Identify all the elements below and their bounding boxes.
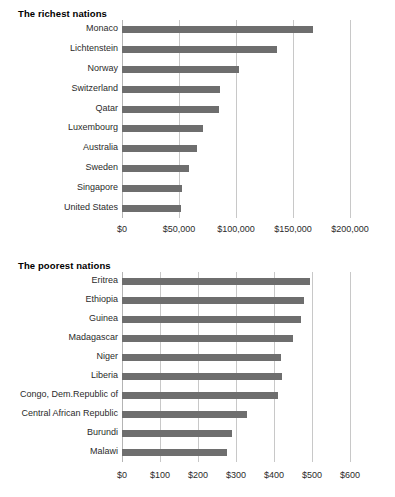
category-label: Malawi xyxy=(90,447,118,456)
bar-rows-richest: MonacoLichtensteinNorwaySwitzerlandQatar… xyxy=(122,20,350,218)
bar-row: Lichtenstein xyxy=(122,40,350,60)
category-label: Congo, Dem.Republic of xyxy=(20,390,118,399)
category-label: United States xyxy=(64,203,118,212)
bar xyxy=(122,411,247,418)
bar xyxy=(122,46,277,53)
category-label: Norway xyxy=(87,64,118,73)
bar xyxy=(122,205,181,212)
plot-area-poorest: EritreaEthiopiaGuineaMadagascarNigerLibe… xyxy=(122,272,350,462)
bar xyxy=(122,392,278,399)
bar xyxy=(122,26,313,33)
bar xyxy=(122,106,219,113)
x-tick-label: $50,000 xyxy=(163,224,196,234)
bar xyxy=(122,278,310,285)
gridline xyxy=(350,20,351,218)
category-label: Madagascar xyxy=(68,333,118,342)
x-tick-label: $0 xyxy=(117,224,127,234)
category-label: Niger xyxy=(96,352,118,361)
bar-row: Central African Republic xyxy=(122,405,350,424)
bar xyxy=(122,145,197,152)
x-tick-label: $200 xyxy=(188,470,208,480)
chart-title-richest: The richest nations xyxy=(18,8,107,19)
bar xyxy=(122,125,203,132)
category-label: Ethiopia xyxy=(85,295,118,304)
bar-row: Congo, Dem.Republic of xyxy=(122,386,350,405)
category-label: Australia xyxy=(83,143,118,152)
x-tick-label: $400 xyxy=(264,470,284,480)
bar xyxy=(122,335,293,342)
category-label: Liberia xyxy=(91,371,118,380)
category-label: Qatar xyxy=(95,104,118,113)
bar-row: Qatar xyxy=(122,99,350,119)
plot-area-richest: MonacoLichtensteinNorwaySwitzerlandQatar… xyxy=(122,20,350,218)
bar-row: Luxembourg xyxy=(122,119,350,139)
x-tick-label: $0 xyxy=(117,470,127,480)
bar-row: Ethiopia xyxy=(122,291,350,310)
x-tick-label: $150,000 xyxy=(274,224,312,234)
bar xyxy=(122,185,182,192)
x-tick-label: $200,000 xyxy=(331,224,369,234)
bar xyxy=(122,66,239,73)
x-tick-label: $600 xyxy=(340,470,360,480)
x-tick-label: $300 xyxy=(226,470,246,480)
category-label: Eritrea xyxy=(91,276,118,285)
bar-row: Sweden xyxy=(122,159,350,179)
bar xyxy=(122,297,304,304)
bar-row: Niger xyxy=(122,348,350,367)
bar-row: Malawi xyxy=(122,443,350,462)
category-label: Guinea xyxy=(89,314,118,323)
chart-richest-nations: The richest nations MonacoLichtensteinNo… xyxy=(0,0,395,245)
bar-row: Switzerland xyxy=(122,79,350,99)
category-label: Singapore xyxy=(77,183,118,192)
category-label: Switzerland xyxy=(71,84,118,93)
bar-row: Australia xyxy=(122,139,350,159)
bar xyxy=(122,354,281,361)
bar-row: Madagascar xyxy=(122,329,350,348)
bar xyxy=(122,316,301,323)
bar xyxy=(122,86,220,93)
x-tick-label: $500 xyxy=(302,470,322,480)
bar xyxy=(122,449,227,456)
category-label: Lichtenstein xyxy=(70,44,118,53)
bar-row: Monaco xyxy=(122,20,350,40)
bar xyxy=(122,373,282,380)
bar-row: Norway xyxy=(122,60,350,80)
category-label: Burundi xyxy=(87,428,118,437)
category-label: Monaco xyxy=(86,24,118,33)
x-tick-label: $100 xyxy=(150,470,170,480)
category-label: Central African Republic xyxy=(21,409,118,418)
bar-row: Burundi xyxy=(122,424,350,443)
x-axis-poorest: $0$100$200$300$400$500$600 xyxy=(122,470,350,484)
x-axis-richest: $0$50,000$100,000$150,000$200,000 xyxy=(122,224,350,238)
category-label: Luxembourg xyxy=(68,123,118,132)
chart-title-poorest: The poorest nations xyxy=(18,260,111,271)
bar-row: United States xyxy=(122,198,350,218)
bar-row: Eritrea xyxy=(122,272,350,291)
bar xyxy=(122,165,189,172)
category-label: Sweden xyxy=(85,163,118,172)
bar-row: Guinea xyxy=(122,310,350,329)
bar-row: Liberia xyxy=(122,367,350,386)
bar-rows-poorest: EritreaEthiopiaGuineaMadagascarNigerLibe… xyxy=(122,272,350,462)
x-tick-label: $100,000 xyxy=(217,224,255,234)
page-edge-artifact xyxy=(386,430,394,490)
bar-row: Singapore xyxy=(122,178,350,198)
bar xyxy=(122,430,232,437)
